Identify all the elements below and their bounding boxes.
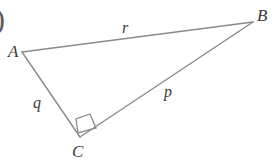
vertex-label-b: B	[257, 7, 267, 24]
vertex-label-c: C	[72, 143, 83, 160]
side-label-p: p	[164, 84, 172, 100]
right-angle-marker	[76, 114, 96, 133]
vertex-label-a: A	[8, 43, 18, 60]
side-label-q: q	[33, 95, 41, 111]
side-label-r: r	[122, 20, 128, 36]
side-p-line	[80, 22, 253, 137]
side-r-line	[22, 22, 253, 52]
side-q-line	[22, 52, 80, 137]
triangle-drawing	[0, 0, 272, 163]
geometry-figure: ) A B C r p q	[0, 0, 272, 163]
